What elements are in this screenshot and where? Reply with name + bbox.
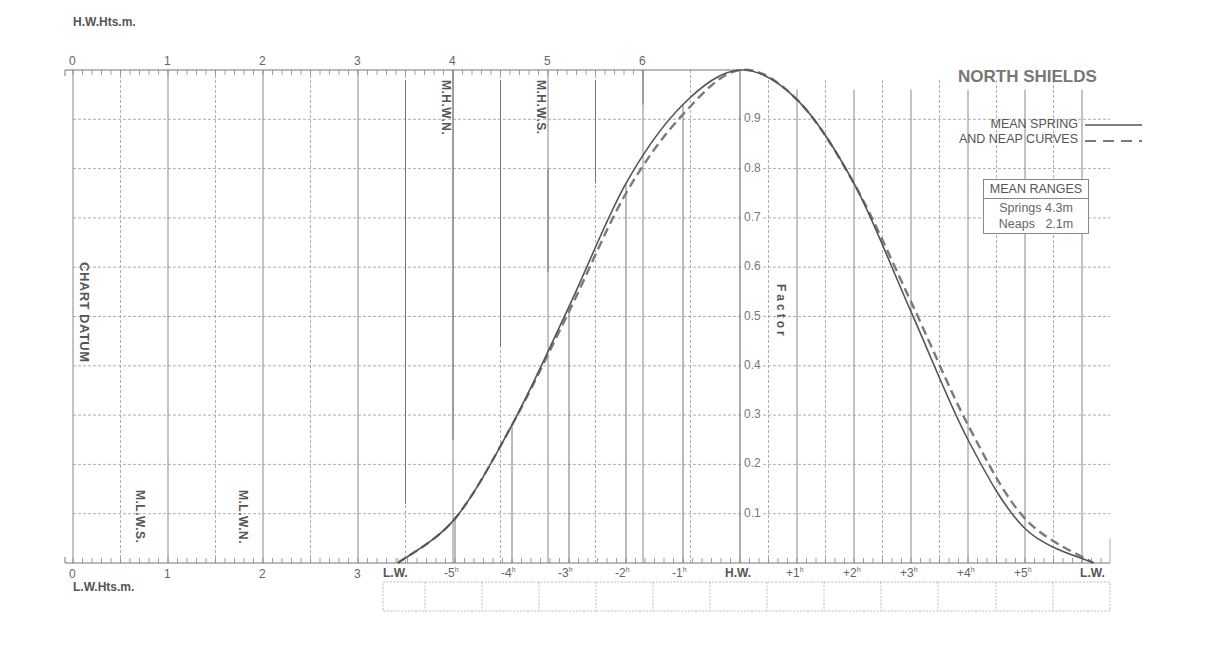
springs-range: Springs 4.3m — [984, 199, 1088, 215]
legend-label: MEAN SPRING AND NEAP CURVES — [938, 117, 1078, 147]
top-tick-label: 3 — [354, 54, 361, 68]
time-tick-label: -1h — [672, 566, 687, 580]
time-tick-label: +5h — [1014, 566, 1032, 580]
top-tick-label: 0 — [69, 54, 76, 68]
springs-value: 4.3m — [1045, 201, 1073, 215]
factor-axis-title: Factor — [774, 284, 788, 339]
time-tick-label: -4h — [501, 566, 516, 580]
top-axis-title: H.W.Hts.m. — [73, 15, 136, 29]
neaps-label: Neaps — [999, 217, 1035, 231]
chart-title: NORTH SHIELDS — [958, 67, 1097, 87]
mean-ranges-header: MEAN RANGES — [984, 180, 1088, 199]
factor-tick-label: 0.5 — [743, 309, 762, 323]
time-entry-boxes — [383, 582, 1110, 611]
factor-tick-label: 0.3 — [743, 407, 762, 421]
legend-swatches — [1085, 125, 1142, 141]
top-tick-label: 4 — [449, 54, 456, 68]
bottom-tick-label: 3 — [354, 567, 361, 581]
mlws-label: M.L.W.S. — [133, 490, 147, 543]
bottom-tick-label: 0 — [69, 567, 76, 581]
factor-tick-label: 0.8 — [743, 161, 762, 175]
legend-line-2: AND NEAP CURVES — [938, 132, 1078, 147]
legend-line-1: MEAN SPRING — [938, 117, 1078, 132]
factor-tick-label: 0.9 — [743, 111, 762, 125]
factor-tick-label: 0.7 — [743, 210, 762, 224]
tidal-curve-chart — [0, 0, 1207, 649]
factor-tick-label: 0.2 — [743, 456, 762, 470]
factor-tick-label: 0.4 — [743, 358, 762, 372]
factor-tick-label: 0.6 — [743, 259, 762, 273]
time-tick-label: +3h — [900, 566, 918, 580]
chart-datum-label: CHART DATUM — [77, 262, 92, 363]
neaps-range: Neaps 2.1m — [984, 215, 1088, 233]
time-tick-label: +1h — [786, 566, 804, 580]
top-tick-label: 1 — [164, 54, 171, 68]
mean-ranges-box: MEAN RANGES Springs 4.3m Neaps 2.1m — [983, 179, 1089, 234]
time-tick-label: H.W. — [725, 566, 751, 580]
top-tick-label: 6 — [639, 54, 646, 68]
time-tick-label: +2h — [843, 566, 861, 580]
mlwn-label: M.L.W.N. — [236, 490, 250, 544]
time-tick-label: L.W. — [383, 566, 408, 580]
time-tick-label: -5h — [444, 566, 459, 580]
mhwn-label: M.H.W.N. — [439, 80, 453, 135]
time-tick-label: L.W. — [1080, 566, 1105, 580]
mhws-label: M.H.W.S. — [534, 80, 548, 135]
time-tick-label: -2h — [615, 566, 630, 580]
top-tick-label: 5 — [544, 54, 551, 68]
springs-label: Springs — [999, 201, 1041, 215]
factor-tick-label: 0.1 — [743, 506, 762, 520]
bottom-tick-label: 2 — [259, 567, 266, 581]
top-tick-label: 2 — [259, 54, 266, 68]
time-tick-label: +4h — [957, 566, 975, 580]
time-box-frame — [383, 582, 1110, 611]
bottom-tick-label: 1 — [164, 567, 171, 581]
neaps-value: 2.1m — [1045, 217, 1073, 231]
time-tick-label: -3h — [558, 566, 573, 580]
bottom-axis-title: L.W.Hts.m. — [73, 580, 134, 594]
